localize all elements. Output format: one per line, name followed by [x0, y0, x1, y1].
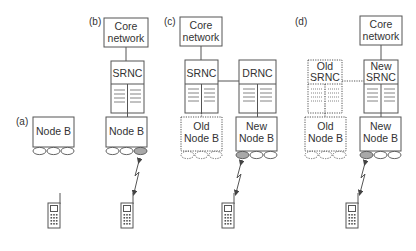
drnc-label: DRNC [242, 67, 273, 79]
new-node-b: New Node B [236, 117, 277, 159]
srnc: SRNC [111, 61, 144, 113]
panel-b-label: (b) [89, 16, 101, 27]
svg-text:Old: Old [317, 120, 334, 132]
radio-link-icon [134, 161, 139, 193]
panel-a-label: (a) [16, 116, 28, 127]
panel-d-label: (d) [295, 16, 307, 27]
panel-b: (b) Core network SRNC Node B [89, 16, 148, 228]
new-srnc: New SRNC [364, 60, 398, 113]
svg-text:Core: Core [190, 19, 213, 31]
radio-link-icon [236, 163, 241, 193]
svg-text:network: network [363, 30, 401, 42]
old-srnc: Old SRNC [308, 60, 342, 113]
cell-ovals [106, 147, 147, 154]
srnc-label: SRNC [187, 67, 217, 79]
svg-text:Node B: Node B [239, 132, 274, 144]
svg-text:Core: Core [370, 18, 393, 30]
mobile-phone-icon [48, 193, 60, 228]
node-b-label: Node B [36, 125, 71, 137]
svg-text:SRNC: SRNC [310, 71, 340, 83]
soft-handover-diagram: (a) Node B (b) Core [0, 0, 416, 251]
cell-ovals [181, 151, 222, 158]
cell-ovals [305, 151, 346, 158]
svg-text:network: network [183, 31, 221, 43]
old-node-b: Old Node B [181, 117, 222, 159]
old-node-b: Old Node B [305, 117, 346, 159]
svg-text:Node B: Node B [184, 132, 219, 144]
panel-d: (d) Core network Old SRNC New SRNC [295, 16, 402, 228]
core-network: Core network [360, 16, 402, 45]
svg-text:Old: Old [193, 120, 210, 132]
svg-text:New: New [246, 120, 267, 132]
panel-c: (c) Core network SRNC DRNC [164, 16, 277, 228]
cell-ovals [360, 151, 401, 158]
active-cell [134, 147, 147, 154]
panel-a: (a) Node B [16, 116, 74, 228]
svg-text:New: New [370, 120, 391, 132]
drnc: DRNC [239, 60, 276, 113]
cell-ovals [236, 151, 277, 158]
mobile-phone-icon [346, 193, 358, 228]
svg-text:Node B: Node B [308, 132, 343, 144]
cell-ovals [33, 147, 74, 154]
panel-c-label: (c) [164, 16, 176, 27]
srnc-label: SRNC [113, 67, 143, 79]
core-network: Core network [104, 18, 148, 47]
mobile-phone-icon [222, 193, 234, 228]
active-cell [236, 151, 249, 158]
svg-text:Node B: Node B [363, 132, 398, 144]
svg-text:network: network [108, 32, 146, 44]
node-b: Node B [33, 117, 74, 155]
srnc: SRNC [185, 60, 218, 113]
new-node-b: New Node B [360, 117, 401, 159]
radio-link-icon [360, 163, 365, 193]
svg-text:Core: Core [115, 20, 138, 32]
svg-text:SRNC: SRNC [366, 71, 396, 83]
mobile-phone-icon [121, 193, 133, 228]
active-cell [360, 151, 373, 158]
node-b: Node B [106, 117, 147, 155]
core-network: Core network [180, 17, 222, 46]
node-b-label: Node B [109, 125, 144, 137]
